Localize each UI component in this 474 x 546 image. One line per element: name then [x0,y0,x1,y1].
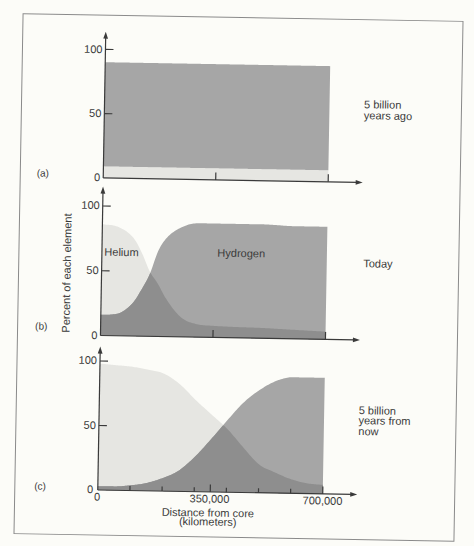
y-axis-title: Percent of each element [60,213,73,332]
y-axis-arrow-icon [103,32,108,39]
hydrogen-area [103,62,330,170]
panel-c-ytick-50: 50 [84,420,96,431]
panel-b-ytick-50: 50 [86,265,98,276]
hydrogen-area-label: Hydrogen [217,248,265,260]
panel-b-caption: Today [363,258,393,270]
x-axis-arrow-icon [353,338,360,343]
panel-b-label: (b) [35,321,47,331]
y-axis-arrow-icon [101,187,106,194]
panel-a-plot [101,32,365,185]
panel-c-caption: 5 billion years from now [358,405,411,438]
helium-area-label: Helium [104,247,138,259]
panel-a-ytick-50: 50 [89,108,101,119]
xtick-label-700000: 700,000 [303,495,343,507]
xtick-label-350000: 350,000 [190,493,230,505]
panel-b-ytick-0: 0 [91,330,97,341]
panel-c-label: (c) [34,481,46,491]
panel-c-ytick-100: 100 [79,355,98,366]
y-axis-arrow-icon [98,347,103,354]
x-axis-arrow-icon [356,180,363,185]
panel-a-caption-line: years ago [364,110,412,122]
panel-b-ytick-100: 100 [81,200,100,211]
panel-c-ytick-0: 0 [87,484,93,495]
panel-a-label: (a) [37,168,49,178]
panel-a-ytick-100: 100 [84,43,103,54]
xtick-label-0: 0 [94,492,100,503]
panel-a-caption: 5 billion years ago [364,99,413,122]
panel-c-caption-line: now [358,426,410,437]
panel-a-ytick-0: 0 [94,172,100,183]
x-axis-arrow-icon [350,492,357,497]
x-axis-units: (kilometers) [179,516,237,528]
figure: (a) 5 billion years ago 100 50 0 (b) Tod… [0,0,474,546]
panel-b-plot [98,187,363,343]
panel-c-plot [95,347,359,497]
